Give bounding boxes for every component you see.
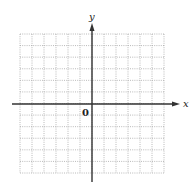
x-axis-label: x [183,98,189,109]
x-axis-arrow-icon [172,102,180,107]
origin-label: 0 [82,107,89,118]
coordinate-plane: y x 0 [0,0,194,194]
y-axis-arrow-icon [90,23,95,31]
y-axis-label: y [88,11,95,22]
